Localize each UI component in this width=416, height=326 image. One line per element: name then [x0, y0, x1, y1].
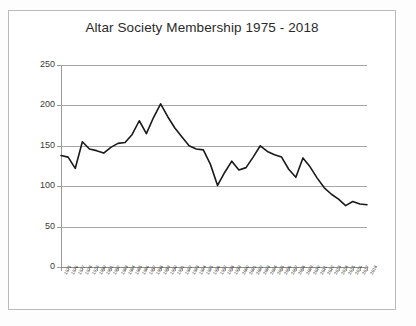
chart-title: Altar Society Membership 1975 - 2018: [8, 20, 396, 35]
x-tick-mark-2001: [246, 268, 247, 271]
x-tick-mark-2012: [324, 268, 325, 271]
x-tick-mark-1995: [203, 268, 204, 271]
x-tick-mark-1985: [132, 268, 133, 271]
x-tick-mark-1983: [118, 268, 119, 271]
x-tick-mark-2000: [239, 268, 240, 271]
x-tick-mark-2003: [260, 268, 261, 271]
chart-plot-series: [61, 65, 368, 268]
x-tick-mark-1996: [210, 268, 211, 271]
x-tick-mark-2018: [367, 268, 368, 271]
x-tick-mark-2009: [303, 268, 304, 271]
x-tick-mark-1984: [125, 268, 126, 271]
x-tick-mark-2010: [310, 268, 311, 271]
x-tick-mark-2013: [331, 268, 332, 271]
x-tick-mark-2004: [267, 268, 268, 271]
page-background: Altar Society Membership 1975 - 2018 050…: [0, 0, 416, 326]
x-tick-mark-1986: [139, 268, 140, 271]
x-tick-mark-1993: [189, 268, 190, 271]
x-tick-mark-1977: [75, 268, 76, 271]
x-tick-mark-1978: [82, 268, 83, 271]
x-tick-mark-2005: [274, 268, 275, 271]
x-tick-mark-1987: [146, 268, 147, 271]
y-axis-label-50: 50: [45, 221, 55, 231]
y-axis-label-200: 200: [40, 99, 55, 109]
y-axis-label-250: 250: [40, 59, 55, 69]
y-axis-label-0: 0: [50, 261, 55, 271]
y-axis-label-100: 100: [40, 180, 55, 190]
y-axis-tick-labels: 050100150200250: [22, 0, 55, 326]
x-tick-mark-1975: [61, 268, 62, 271]
x-tick-mark-1994: [196, 268, 197, 271]
x-tick-mark-1992: [182, 268, 183, 271]
x-tick-mark-2011: [317, 268, 318, 271]
y-axis-label-150: 150: [40, 140, 55, 150]
x-tick-mark-2002: [253, 268, 254, 271]
x-tick-mark-1979: [89, 268, 90, 271]
x-tick-mark-1976: [68, 268, 69, 271]
membership-line-series: [61, 104, 367, 206]
